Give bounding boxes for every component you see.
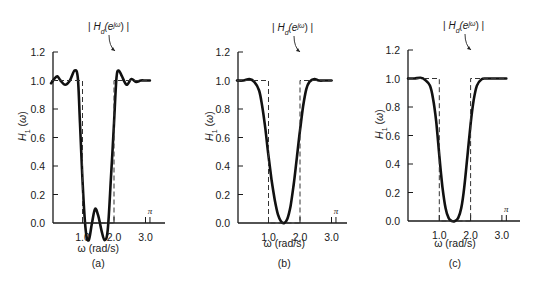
filter-response-curve <box>237 79 332 223</box>
y-tick-label: 0.0 <box>385 215 400 227</box>
pi-tick-label: π <box>504 204 509 214</box>
y-tick-label: 0.0 <box>215 217 230 229</box>
y-tick-label: 0.6 <box>30 132 45 144</box>
y-tick-label: 0.8 <box>30 103 45 115</box>
panel-label: (c) <box>449 257 461 269</box>
y-tick-label: 0.6 <box>385 130 400 142</box>
ideal-response-dashed-line <box>408 79 506 222</box>
ideal-response-dashed-line <box>51 81 150 224</box>
y-tick-label: 0.2 <box>30 189 45 201</box>
x-axis-label: ω (rad/s) <box>434 237 475 249</box>
y-tick-label: 1.0 <box>215 75 230 87</box>
y-axis-label: H1 (ω) <box>16 111 31 141</box>
panel-label: (a) <box>92 257 105 269</box>
y-tick-label: 1.2 <box>385 44 400 56</box>
y-tick-label: 1.0 <box>30 75 45 87</box>
ideal-response-annotation: | Hd(ejω) | <box>88 21 129 35</box>
y-tick-label: 0.6 <box>215 132 230 144</box>
filter-response-curve <box>51 70 150 240</box>
panel-label: (b) <box>278 257 291 269</box>
pi-tick-label: π <box>148 206 153 216</box>
ideal-response-annotation: | Hd(ejω) | <box>443 20 484 34</box>
filter-response-curve <box>408 78 506 222</box>
y-tick-label: 0.4 <box>215 160 230 172</box>
ideal-response-annotation: | Hd(ejω) | <box>272 22 313 36</box>
chart-panel-c: 0.00.20.40.60.81.01.21.02.03.0π| Hd(ejω)… <box>373 20 520 270</box>
x-axis-label: ω (rad/s) <box>78 242 119 254</box>
y-tick-label: 0.8 <box>215 103 230 115</box>
y-tick-label: 0.2 <box>385 187 400 199</box>
x-tick-label: 3.0 <box>324 231 339 243</box>
y-tick-label: 1.2 <box>30 46 45 58</box>
figure-canvas: 0.00.20.40.60.81.01.21.02.03.0π| Hd(ejω)… <box>0 0 534 283</box>
y-tick-label: 1.2 <box>215 46 230 58</box>
chart-panel-a: 0.00.20.40.60.81.01.21.02.03.0π| Hd(ejω)… <box>16 21 165 270</box>
x-tick-label: 3.0 <box>138 231 153 243</box>
y-tick-label: 0.8 <box>385 101 400 113</box>
y-tick-label: 0.2 <box>215 189 230 201</box>
y-tick-label: 0.0 <box>30 217 45 229</box>
x-tick-label: 3.0 <box>495 229 510 241</box>
x-axis-label: ω (rad/s) <box>264 237 305 249</box>
y-tick-label: 0.4 <box>30 160 45 172</box>
ideal-response-dashed-line <box>237 81 336 224</box>
y-tick-label: 0.4 <box>385 158 400 170</box>
pi-tick-label: π <box>334 206 339 216</box>
y-tick-label: 1.0 <box>385 73 400 85</box>
chart-panel-b: 0.00.20.40.60.81.01.21.02.03.0π| Hd(ejω)… <box>203 22 347 270</box>
